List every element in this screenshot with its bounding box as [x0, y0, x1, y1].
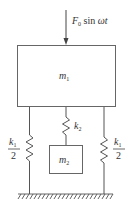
force-arrow	[64, 10, 69, 45]
force-label: F0 sin ωt	[71, 15, 108, 27]
svg-text:2: 2	[11, 150, 16, 161]
spring-middle-label: k2	[74, 120, 81, 132]
spring-left-label: k1 2	[8, 136, 20, 161]
vibration-diagram: F0 sin ωt m1 k1 2 k2 m2 k1 2	[0, 0, 133, 213]
spring-right	[101, 107, 108, 194]
svg-text:2: 2	[116, 150, 121, 161]
ground-support	[18, 194, 113, 199]
svg-text:k1: k1	[114, 136, 121, 148]
spring-right-label: k1 2	[113, 136, 125, 161]
svg-text:k1: k1	[9, 136, 16, 148]
spring-middle	[63, 107, 70, 145]
spring-left	[26, 107, 33, 194]
